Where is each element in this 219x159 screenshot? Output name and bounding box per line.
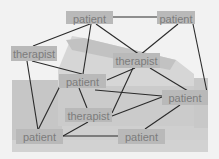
node-label: patient (23, 131, 56, 143)
edge-t_lower-p_right (112, 97, 162, 116)
node-patient-p_topright: patient (157, 11, 195, 24)
node-patient-p_top: patient (66, 11, 113, 24)
edge-t_lower-p_botleft (63, 122, 88, 136)
edge-t_left-p_botleft (27, 61, 38, 130)
node-label: patient (159, 13, 192, 25)
node-label: therapist (67, 110, 109, 122)
edge-p_topright-p_right (193, 24, 207, 92)
node-patient-p_botcenter: patient (118, 129, 165, 144)
edge-p_center-t_lower (79, 88, 87, 108)
edge-t_mid-p_right (150, 68, 188, 91)
node-label: therapist (13, 48, 55, 60)
node-therapist-t_lower: therapist (65, 108, 112, 122)
edge-p_top-t_mid (96, 24, 140, 55)
edge-p_top-p_center (83, 24, 91, 74)
node-therapist-t_left: therapist (11, 46, 57, 61)
node-therapist-t_mid: therapist (113, 53, 160, 68)
node-patient-p_right: patient (162, 90, 208, 105)
edge-p_topright-t_mid (140, 24, 178, 55)
node-patient-p_center: patient (59, 74, 106, 88)
node-label: patient (125, 131, 158, 143)
node-label: patient (66, 76, 99, 88)
edge-t_left-p_center (32, 61, 82, 74)
edge-p_center-p_right (95, 90, 162, 96)
edge-t_mid-t_lower (112, 68, 133, 113)
node-label: patient (168, 92, 201, 104)
edge-p_right-p_botcenter (145, 105, 180, 129)
edge-p_center-p_botleft (38, 86, 60, 130)
node-label: patient (73, 13, 106, 25)
node-label: therapist (115, 55, 157, 67)
node-patient-p_botleft: patient (16, 129, 63, 144)
edge-p_top-t_left (33, 24, 90, 46)
